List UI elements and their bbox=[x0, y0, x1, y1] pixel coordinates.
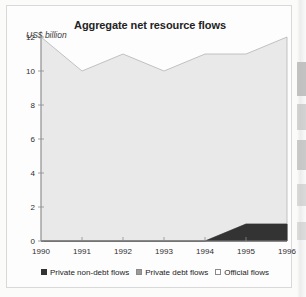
legend-label: Private debt flows bbox=[145, 268, 208, 277]
x-axis-tick-label: 1993 bbox=[144, 247, 184, 256]
legend-swatch-icon bbox=[215, 269, 221, 275]
x-axis-tick-label: 1992 bbox=[103, 247, 143, 256]
y-axis-tick-label: 4 bbox=[13, 169, 35, 178]
legend-swatch-icon bbox=[41, 269, 47, 275]
gutter-smudge bbox=[297, 184, 306, 206]
x-axis-tick-label: 1995 bbox=[226, 247, 266, 256]
x-axis-tick-label: 1994 bbox=[185, 247, 225, 256]
gutter-smudge bbox=[297, 104, 306, 130]
y-axis-tick-label: 0 bbox=[13, 237, 35, 246]
gutter-smudge bbox=[297, 222, 306, 240]
gutter-smudge bbox=[297, 62, 306, 96]
y-axis-tick-label: 8 bbox=[13, 101, 35, 110]
plot-area: 024681012 1990199119921993199419951996 bbox=[7, 6, 293, 289]
legend-swatch-icon bbox=[136, 269, 142, 275]
area-series-official-flows bbox=[41, 37, 287, 241]
chart-legend: Private non-debt flows Private debt flow… bbox=[21, 265, 283, 279]
scan-gutter-artifact bbox=[297, 0, 306, 297]
area-series-layers bbox=[41, 37, 287, 241]
scanned-page: Aggregate net resource flows US$ billion… bbox=[0, 0, 306, 297]
legend-item-official-flows: Official flows bbox=[215, 268, 269, 277]
x-axis-tick-label: 1991 bbox=[62, 247, 102, 256]
y-axis-tick-label: 6 bbox=[13, 135, 35, 144]
y-axis-tick-label: 12 bbox=[13, 33, 35, 42]
legend-item-private-non-debt-flows: Private non-debt flows bbox=[41, 268, 129, 277]
gutter-smudge bbox=[297, 140, 306, 170]
legend-label: Official flows bbox=[224, 268, 269, 277]
legend-label: Private non-debt flows bbox=[50, 268, 129, 277]
x-axis-tick-label: 1990 bbox=[21, 247, 61, 256]
legend-item-private-debt-flows: Private debt flows bbox=[136, 268, 208, 277]
y-axis-tick-label: 10 bbox=[13, 67, 35, 76]
figure-frame: Aggregate net resource flows US$ billion… bbox=[6, 5, 292, 288]
y-axis-tick-label: 2 bbox=[13, 203, 35, 212]
